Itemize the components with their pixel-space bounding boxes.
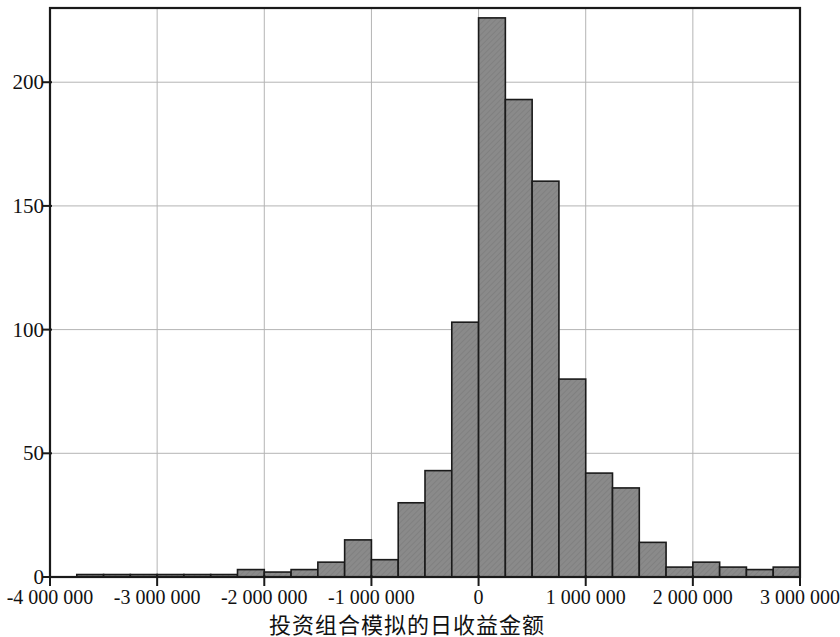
histogram-bar xyxy=(639,542,666,577)
histogram-bar xyxy=(452,322,479,577)
histogram-bar xyxy=(479,18,506,577)
x-tick-label: 1 000 000 xyxy=(546,586,626,609)
histogram-bar xyxy=(371,560,398,577)
x-tick-label: -2 000 000 xyxy=(221,586,308,609)
histogram-bar xyxy=(586,473,613,577)
histogram-bar xyxy=(398,503,425,577)
histogram-bar xyxy=(559,379,586,577)
histogram-bar xyxy=(291,570,318,577)
histogram-bar xyxy=(318,562,345,577)
histogram-bar xyxy=(425,471,452,577)
x-tick-label: 3 000 000 xyxy=(760,586,840,609)
x-tick-label: -3 000 000 xyxy=(114,586,201,609)
histogram-bar xyxy=(720,567,747,577)
x-tick-label: -1 000 000 xyxy=(328,586,415,609)
x-tick-label: 0 xyxy=(474,586,484,609)
x-tick-label: 2 000 000 xyxy=(653,586,733,609)
histogram-bar xyxy=(345,540,372,577)
histogram-bar xyxy=(613,488,640,577)
histogram-bar xyxy=(666,567,693,577)
histogram-bar xyxy=(505,100,532,577)
histogram-bar xyxy=(693,562,720,577)
histogram-bar xyxy=(532,181,559,577)
x-tick-label: -4 000 000 xyxy=(7,586,94,609)
x-axis-title: 投资组合模拟的日收益金额 xyxy=(0,607,814,637)
histogram-bar xyxy=(746,570,773,577)
histogram-bar xyxy=(238,570,265,577)
histogram-bar xyxy=(773,567,800,577)
